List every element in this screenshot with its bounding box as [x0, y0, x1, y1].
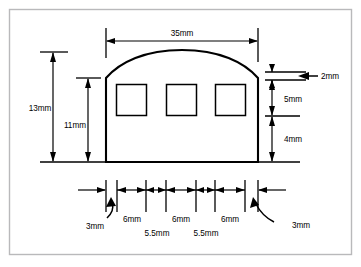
bottom-chain-extension-lines: [106, 180, 258, 212]
arrowhead-top-13mm: [50, 52, 56, 62]
arrowhead-6mm-2-right: [187, 187, 196, 193]
dimension-edge-thickness: 2mm: [269, 64, 339, 88]
arrowhead-2mm-down: [269, 64, 275, 72]
arrowhead-6mm-1-right: [137, 187, 146, 193]
arrowhead-6mm-3-right: [236, 187, 245, 193]
window-opening-3: [216, 85, 246, 116]
arrowhead-55mm-1-left: [146, 187, 154, 193]
arrowhead-left-35mm: [106, 38, 115, 44]
label-span-6mm-3: 6mm: [221, 215, 239, 224]
dimension-drawing-svg: 35mm 13mm 11mm: [0, 0, 361, 267]
dimension-overall-height: 13mm: [29, 52, 106, 162]
arrowhead-leader-left-3mm: [106, 197, 116, 207]
arrowhead-bottom-13mm: [50, 152, 56, 162]
leader-left-3mm: 3mm: [86, 197, 116, 231]
label-gap-55mm-1: 5.5mm: [144, 229, 169, 238]
dimension-wall-height: 11mm: [64, 78, 101, 162]
arrowhead-4mm-top: [269, 116, 275, 126]
arrowhead-55mm-1-right: [158, 187, 166, 193]
arrowhead-6mm-1-left: [117, 187, 126, 193]
dimension-overall-width: 35mm: [106, 28, 258, 62]
label-wall-height: 11mm: [64, 121, 86, 130]
window-opening-1: [117, 85, 147, 116]
window-opening-2: [167, 85, 197, 116]
arrowhead-6mm-2-left: [166, 187, 175, 193]
label-overall-height: 13mm: [29, 104, 52, 113]
label-window-height: 5mm: [284, 95, 302, 104]
label-left-margin: 3mm: [86, 222, 104, 231]
label-edge-thickness: 2mm: [321, 72, 339, 81]
technical-drawing-canvas: 35mm 13mm 11mm: [0, 0, 361, 267]
label-base-height: 4mm: [284, 135, 302, 144]
label-overall-width: 35mm: [171, 29, 194, 38]
arrowhead-right-3mm-in: [258, 187, 267, 193]
arrowhead-right-35mm: [249, 38, 258, 44]
arrowhead-bottom-11mm: [85, 152, 91, 162]
arrowhead-55mm-2-right: [207, 187, 215, 193]
bottom-chain-dimension-line: [78, 187, 286, 193]
label-span-6mm-2: 6mm: [172, 215, 190, 224]
arrowhead-left-3mm-in: [97, 187, 106, 193]
label-right-margin: 3mm: [292, 221, 310, 230]
arrowhead-5mm-top: [269, 80, 275, 90]
arrowhead-55mm-2-left: [196, 187, 204, 193]
dimension-base-height: 4mm: [269, 116, 302, 162]
leader-curve-right-3mm: [256, 204, 274, 222]
arrowhead-5mm-bottom: [269, 106, 275, 116]
arrowhead-leader-2mm: [298, 72, 309, 80]
label-gap-55mm-2: 5.5mm: [193, 229, 218, 238]
arrowhead-4mm-bottom: [269, 152, 275, 162]
leader-right-3mm: 3mm: [250, 197, 310, 230]
arrowhead-top-11mm: [85, 78, 91, 88]
label-span-6mm-1: 6mm: [123, 215, 141, 224]
arrowhead-6mm-3-left: [215, 187, 224, 193]
